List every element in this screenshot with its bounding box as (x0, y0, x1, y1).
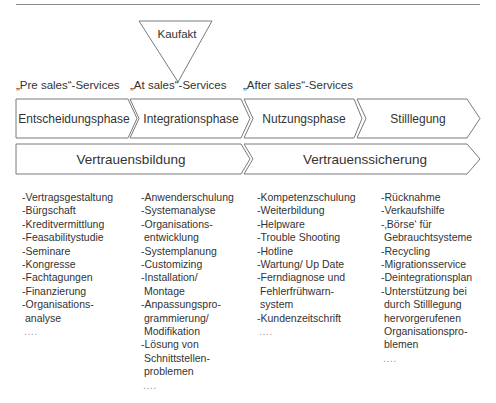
phase-label: Stilllegung (390, 112, 445, 126)
phase-label: Entscheidungsphase (18, 112, 130, 126)
trust-label: Vertrauensbildung (77, 152, 186, 167)
phase-nutzungsphase: Nutzungsphase (244, 99, 362, 138)
service-list-nutzungsphase: -Kompetenzschulung -Weiterbildung -Helpw… (257, 191, 356, 338)
list-item: -Feasabilitystudie (22, 231, 113, 244)
list-item: -Rücknahme (381, 191, 472, 204)
list-item: -Unterstützung bei (381, 285, 472, 298)
service-list-entscheidungsphase: -Vertragsgestaltung -Bürgschaft -Kreditv… (22, 191, 113, 338)
list-item: -Systemplanung (141, 245, 234, 258)
phase-stilllegung: Stilllegung (357, 99, 480, 138)
list-item: -Lösung von (141, 338, 234, 351)
list-item: -Finanzierung (22, 285, 113, 298)
list-item-continuation: Organisationspro- (381, 325, 472, 338)
trust-vertrauenssicherung: Vertrauenssicherung (244, 144, 480, 174)
service-list-stilllegung: -Rücknahme -Verkaufshilfe -‚Börse‘ für G… (381, 191, 472, 365)
list-ellipsis: .... (141, 379, 234, 392)
list-item: -Bürgschaft (22, 204, 113, 217)
list-item-continuation: system (257, 298, 356, 311)
phase-label: Nutzungsphase (262, 112, 346, 126)
list-item: -Systemanalyse (141, 204, 234, 217)
list-item-continuation: problemen (141, 365, 234, 378)
list-item-continuation: Gebrauchtsysteme (381, 231, 472, 244)
list-item: -Vertragsgestaltung (22, 191, 113, 204)
list-item: -Migrationsservice (381, 258, 472, 271)
phase-integrationsphase: Integrationsphase (130, 99, 250, 138)
list-ellipsis: .... (381, 352, 472, 365)
list-item-continuation: Modifikation (141, 325, 234, 338)
list-item-continuation: analyse (22, 312, 113, 325)
list-item: -Anpassungspro- (141, 298, 234, 311)
list-item-continuation: durch Stilllegung (381, 298, 472, 311)
list-item: -Installation/ (141, 271, 234, 284)
phase-entscheidungsphase: Entscheidungsphase (16, 99, 137, 138)
service-label-after-sales: „After sales“-Services (243, 79, 353, 91)
service-label-pre-sales: „Pre sales“-Services (16, 79, 120, 91)
list-item: -Wartung/ Up Date (257, 258, 356, 271)
list-item: -Kreditvermittlung (22, 218, 113, 231)
list-item: -Verkaufshilfe (381, 204, 472, 217)
list-item-continuation: hervorgerufenen (381, 312, 472, 325)
list-item: -Organisations- (141, 218, 234, 231)
list-ellipsis: .... (257, 325, 356, 338)
list-item-continuation: entwicklung (141, 231, 234, 244)
list-item: -Trouble Shooting (257, 231, 356, 244)
list-item: -Customizing (141, 258, 234, 271)
trust-vertrauensbildung: Vertrauensbildung (16, 144, 250, 174)
kaufakt-label: Kaufakt (158, 28, 198, 40)
list-item: -Hotline (257, 245, 356, 258)
list-item-continuation: Schnittstellen- (141, 352, 234, 365)
list-item: -Kundenzeitschrift (257, 312, 356, 325)
list-item: -Fachtagungen (22, 271, 113, 284)
list-item-continuation: Fehlerfrühwarn- (257, 285, 356, 298)
trust-label: Vertrauenssicherung (303, 152, 427, 167)
list-item: -‚Börse‘ für (381, 218, 472, 231)
list-item-continuation: blemen (381, 338, 472, 351)
list-item: -Deintegrationsplan (381, 271, 472, 284)
list-item: -Organisations- (22, 298, 113, 311)
service-list-integrationsphase: -Anwenderschulung -Systemanalyse -Organi… (141, 191, 234, 392)
list-item: -Recycling (381, 245, 472, 258)
list-item-continuation: grammierung/ (141, 312, 234, 325)
list-item: -Seminare (22, 245, 113, 258)
kaufakt-marker: Kaufakt (139, 21, 212, 82)
list-item-continuation: Montage (141, 285, 234, 298)
list-item: -Kompetenzschulung (257, 191, 356, 204)
list-ellipsis: .... (22, 325, 113, 338)
list-item: -Weiterbildung (257, 204, 356, 217)
list-item: -Ferndiagnose und (257, 271, 356, 284)
list-item: -Helpware (257, 218, 356, 231)
list-item: -Anwenderschulung (141, 191, 234, 204)
phase-row: Entscheidungsphase Integrationsphase Nut… (16, 99, 480, 138)
phase-label: Integrationsphase (143, 112, 239, 126)
trust-row: Vertrauensbildung Vertrauenssicherung (16, 144, 480, 174)
list-item: -Kongresse (22, 258, 113, 271)
service-label-at-sales: „At sales“-Services (130, 79, 227, 91)
